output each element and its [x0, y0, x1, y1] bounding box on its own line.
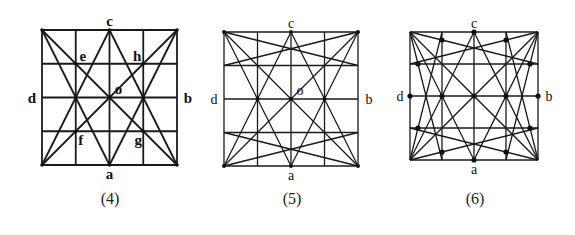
label-c: c [106, 13, 113, 29]
label-f: f [78, 132, 84, 148]
intersection-point [40, 28, 44, 32]
intersection-point [439, 149, 444, 154]
label-b: b [546, 89, 553, 104]
intersection-point [256, 97, 260, 101]
label-a: a [106, 166, 114, 182]
intersection-point [222, 30, 226, 34]
label-d: d [397, 89, 404, 104]
intersection-point [503, 37, 508, 42]
figure-5-grid-diagram: cadbo [211, 16, 373, 183]
label-d: d [28, 90, 37, 106]
label-b: b [366, 92, 373, 107]
intersection-point [74, 96, 78, 100]
intersection-point [503, 149, 508, 154]
intersection-point [503, 93, 508, 98]
intersection-point [74, 129, 78, 133]
label-c: c [288, 16, 294, 31]
intersection-point [40, 163, 44, 167]
intersection-point [415, 61, 420, 66]
intersection-point [439, 37, 444, 42]
label-e: e [79, 48, 86, 64]
intersection-point [222, 164, 226, 168]
intersection-point [323, 97, 327, 101]
label-o: o [297, 83, 304, 98]
figure-4-grid-diagram: cadboehfg [28, 13, 192, 182]
label-a: a [288, 168, 295, 183]
intersection-point [289, 97, 293, 101]
label-b: b [184, 90, 192, 106]
label-c: c [471, 16, 477, 31]
intersection-point [175, 163, 179, 167]
intersection-point [535, 93, 540, 98]
label-a: a [471, 162, 478, 177]
intersection-point [74, 62, 78, 66]
intersection-point [415, 125, 420, 130]
label-o: o [115, 81, 123, 97]
label-g: g [135, 132, 143, 148]
intersection-point [439, 93, 444, 98]
figure-6-grid-diagram: cadb [397, 16, 553, 177]
label-d: d [211, 92, 218, 107]
intersection-point [356, 164, 360, 168]
intersection-point [175, 28, 179, 32]
intersection-point [407, 93, 412, 98]
intersection-point [141, 62, 145, 66]
intersection-point [108, 96, 112, 100]
figure-4-caption: (4) [80, 190, 140, 208]
figure-6-caption: (6) [445, 190, 505, 208]
intersection-point [527, 125, 532, 130]
figure-5-caption: (5) [262, 190, 322, 208]
intersection-point [471, 93, 476, 98]
intersection-point [356, 30, 360, 34]
label-h: h [133, 48, 142, 64]
intersection-point [527, 61, 532, 66]
intersection-point [141, 96, 145, 100]
